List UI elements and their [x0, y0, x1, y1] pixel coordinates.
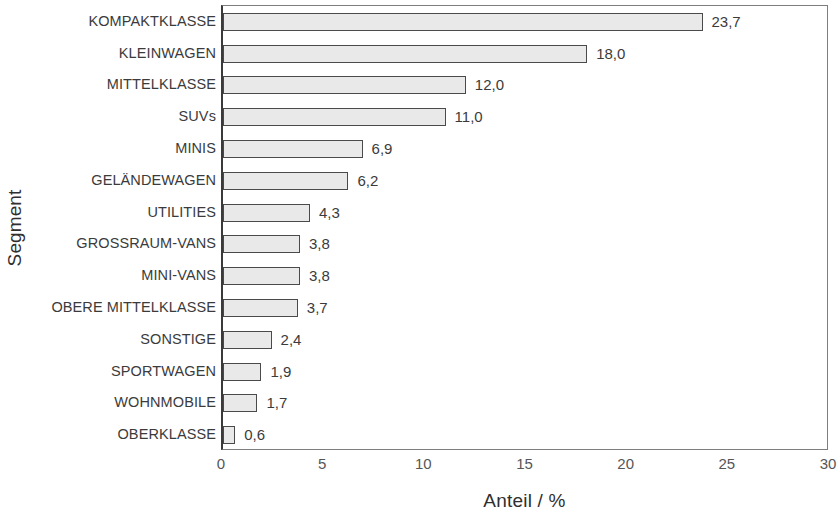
category-label: SONSTIGE — [28, 332, 216, 347]
y-axis-title-text: Segment — [4, 189, 26, 266]
bar-value-label: 6,2 — [357, 173, 378, 188]
category-label: KLEINWAGEN — [28, 46, 216, 61]
x-axis-title: Anteil / % — [221, 490, 828, 512]
category-label: MITTELKLASSE — [28, 77, 216, 92]
bar — [223, 108, 446, 126]
category-axis: KOMPAKTKLASSEKLEINWAGENMITTELKLASSESUVsM… — [28, 5, 216, 450]
bar-value-label: 23,7 — [712, 14, 741, 29]
y-axis-title: Segment — [0, 0, 30, 455]
x-axis-tick-label: 0 — [217, 456, 225, 471]
category-label: MINIS — [28, 141, 216, 156]
x-axis-tick-label: 10 — [415, 456, 432, 471]
bar — [223, 204, 310, 222]
bar-value-label: 18,0 — [596, 46, 625, 61]
bar — [223, 363, 261, 381]
plot-inner: 23,718,012,011,06,96,24,33,83,83,72,41,9… — [223, 6, 827, 449]
bar — [223, 13, 703, 31]
bar — [223, 299, 298, 317]
bar — [223, 426, 235, 444]
x-axis-tick-label: 20 — [617, 456, 634, 471]
bar — [223, 172, 348, 190]
bar-value-label: 4,3 — [319, 205, 340, 220]
bar — [223, 45, 587, 63]
bar-value-label: 3,8 — [309, 236, 330, 251]
bar — [223, 331, 272, 349]
category-label: GELÄNDEWAGEN — [28, 173, 216, 188]
bar-value-label: 3,8 — [309, 268, 330, 283]
category-label: WOHNMOBILE — [28, 395, 216, 410]
bar — [223, 267, 300, 285]
x-axis-tick-label: 25 — [718, 456, 735, 471]
x-axis-tick-label: 5 — [318, 456, 326, 471]
bar — [223, 140, 363, 158]
bar — [223, 235, 300, 253]
category-label: KOMPAKTKLASSE — [28, 14, 216, 29]
plot-area: 23,718,012,011,06,96,24,33,83,83,72,41,9… — [221, 5, 828, 450]
bar-chart: Segment KOMPAKTKLASSEKLEINWAGENMITTELKLA… — [0, 0, 840, 523]
bar — [223, 76, 466, 94]
category-label: SUVs — [28, 109, 216, 124]
category-label: SPORTWAGEN — [28, 364, 216, 379]
bar-value-label: 1,7 — [266, 395, 287, 410]
category-label: OBERKLASSE — [28, 427, 216, 442]
bar-value-label: 1,9 — [270, 364, 291, 379]
category-label: MINI-VANS — [28, 268, 216, 283]
bar-value-label: 12,0 — [475, 77, 504, 92]
category-label: UTILITIES — [28, 205, 216, 220]
category-label: GROSSRAUM-VANS — [28, 236, 216, 251]
x-axis-tick-label: 30 — [820, 456, 837, 471]
x-axis-tick-label: 15 — [516, 456, 533, 471]
x-axis-ticks: 051015202530 — [221, 456, 828, 482]
bar-value-label: 2,4 — [281, 332, 302, 347]
bar-value-label: 11,0 — [455, 109, 483, 124]
bar-value-label: 6,9 — [372, 141, 393, 156]
bar-value-label: 0,6 — [244, 427, 265, 442]
bar-value-label: 3,7 — [307, 300, 328, 315]
bar — [223, 394, 257, 412]
category-label: OBERE MITTELKLASSE — [28, 300, 216, 315]
